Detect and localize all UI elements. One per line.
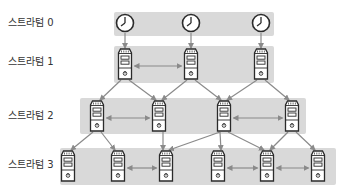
sync-link-s2a-s3a bbox=[71, 132, 93, 150]
sync-link-s1a-s2a bbox=[100, 80, 121, 100]
server-icon bbox=[91, 101, 104, 131]
sync-link-s1c-s2d bbox=[265, 80, 289, 100]
server-icon bbox=[112, 151, 125, 181]
server-icon bbox=[286, 101, 299, 131]
server-icon bbox=[218, 101, 231, 131]
sync-link-s2d-s3f bbox=[296, 132, 315, 150]
server-icon bbox=[212, 151, 225, 181]
server-icon bbox=[119, 49, 132, 79]
server-icon bbox=[62, 151, 75, 181]
server-icon bbox=[312, 151, 325, 181]
server-icon bbox=[261, 151, 274, 181]
sync-link-s2c-s3d bbox=[220, 132, 221, 150]
stratum-3-band bbox=[60, 148, 336, 185]
server-icon bbox=[185, 49, 198, 79]
clock-icon bbox=[253, 15, 270, 32]
sync-link-s2c-s3e bbox=[228, 132, 264, 150]
clock-icon bbox=[117, 15, 134, 32]
sync-link-s2a-s3b bbox=[101, 132, 115, 150]
ntp-hierarchy-diagram bbox=[0, 0, 339, 193]
server-icon bbox=[160, 151, 173, 181]
clock-icon bbox=[183, 15, 200, 32]
sync-link-s2d-s3e bbox=[270, 132, 288, 150]
server-icon bbox=[153, 101, 166, 131]
stratum-2-band bbox=[80, 98, 306, 134]
server-icon bbox=[255, 49, 268, 79]
sync-link-s2c-s3c bbox=[169, 132, 220, 150]
